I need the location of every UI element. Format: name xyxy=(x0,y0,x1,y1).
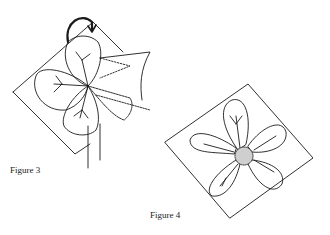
figure-3-caption: Figure 3 xyxy=(10,165,40,175)
rotation-arrow-icon xyxy=(67,18,92,42)
figure-4-drawing xyxy=(165,84,313,218)
illustration-canvas xyxy=(0,0,330,235)
figure-4-caption: Figure 4 xyxy=(150,210,180,220)
figure-3-drawing xyxy=(13,18,150,168)
flower-center xyxy=(235,147,253,165)
illustration-page: Figure 3 Figure 4 xyxy=(0,0,330,235)
